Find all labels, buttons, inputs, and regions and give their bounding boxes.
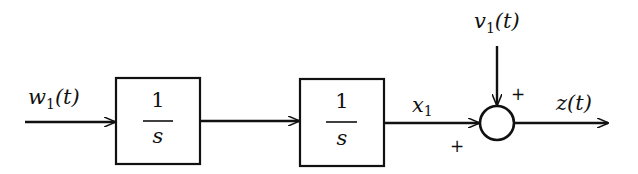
integrator-block-2: 1 s <box>300 79 384 166</box>
summing-junction <box>480 106 514 140</box>
disturbance-signal: v1(t) + <box>474 9 525 105</box>
v1-label: v1(t) <box>474 9 520 36</box>
block-1-denominator: s <box>153 124 164 148</box>
plus-sign-left: + <box>450 136 464 156</box>
block-diagram: w1(t) 1 s 1 s x1 + v1(t) + z(t) <box>0 0 638 174</box>
block-2-denominator: s <box>337 126 348 150</box>
input-label: w1(t) <box>28 85 80 112</box>
plus-sign-top: + <box>511 84 525 104</box>
integrator-block-1: 1 s <box>116 78 200 164</box>
x1-label: x1 <box>412 93 433 119</box>
output-signal: z(t) <box>514 91 608 123</box>
block-1-numerator: 1 <box>151 88 164 112</box>
intermediate-signal: x1 + <box>384 93 479 156</box>
block-2-numerator: 1 <box>335 89 348 113</box>
input-signal: w1(t) <box>25 85 115 122</box>
output-label: z(t) <box>555 91 592 115</box>
